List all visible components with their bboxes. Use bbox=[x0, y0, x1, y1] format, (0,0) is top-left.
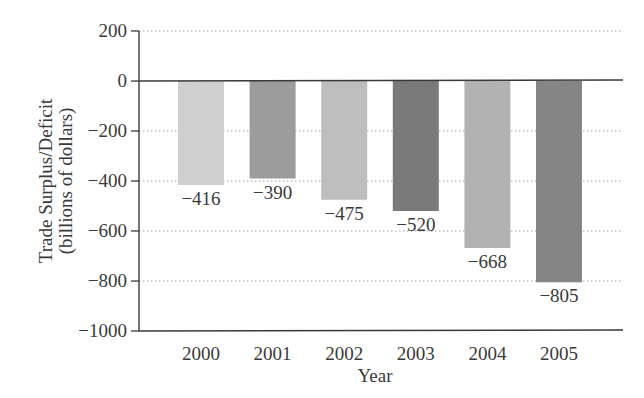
data-label: −475 bbox=[325, 203, 364, 224]
y-tick-label: −800 bbox=[88, 270, 127, 291]
x-tick-label: 2003 bbox=[397, 343, 435, 364]
data-label: −520 bbox=[396, 214, 435, 235]
bars bbox=[178, 81, 582, 282]
y-tick-label: 200 bbox=[99, 20, 128, 41]
y-tick-label: −400 bbox=[88, 170, 127, 191]
x-tick-label: 2000 bbox=[182, 343, 220, 364]
x-axis-title: Year bbox=[357, 365, 393, 386]
bar-2002 bbox=[321, 81, 367, 200]
y-axis-title-line2: (billions of dollars) bbox=[55, 108, 77, 255]
x-tick-label: 2001 bbox=[254, 343, 292, 364]
y-tick-label: 0 bbox=[118, 70, 128, 91]
chart-svg: 2000−200−400−600−800−1000 20002001200220… bbox=[0, 0, 644, 398]
data-label: −805 bbox=[539, 285, 578, 306]
x-axis-line bbox=[139, 330, 623, 331]
y-axis-title-line1: Trade Surplus/Deficit bbox=[35, 98, 56, 263]
x-tick-label: 2004 bbox=[468, 343, 507, 364]
y-axis-ticks: 2000−200−400−600−800−1000 bbox=[78, 20, 139, 341]
data-label: −390 bbox=[253, 182, 292, 203]
zero-line bbox=[139, 80, 623, 81]
x-tick-label: 2005 bbox=[540, 343, 578, 364]
data-label: −668 bbox=[468, 251, 507, 272]
y-tick-label: −600 bbox=[88, 220, 127, 241]
y-tick-label: −1000 bbox=[78, 320, 127, 341]
bar-2003 bbox=[393, 81, 439, 211]
bar-2001 bbox=[250, 81, 296, 179]
data-label: −416 bbox=[181, 188, 220, 209]
bar-2000 bbox=[178, 81, 224, 185]
trade-balance-bar-chart: 2000−200−400−600−800−1000 20002001200220… bbox=[0, 0, 644, 398]
bar-2005 bbox=[536, 81, 582, 282]
x-axis-ticks: 200020012002200320042005 bbox=[182, 343, 578, 364]
bar-2004 bbox=[464, 81, 510, 248]
data-labels: −416−390−475−520−668−805 bbox=[181, 182, 578, 307]
y-tick-label: −200 bbox=[88, 120, 127, 141]
x-tick-label: 2002 bbox=[325, 343, 363, 364]
y-axis-title: Trade Surplus/Deficit (billions of dolla… bbox=[35, 98, 77, 263]
